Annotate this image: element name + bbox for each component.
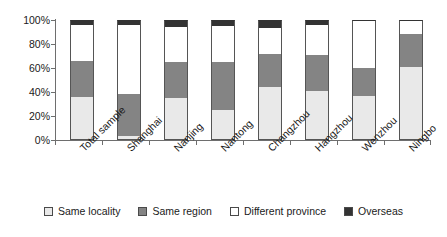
x-axis-tick xyxy=(290,141,291,145)
legend-swatch-icon xyxy=(344,207,353,216)
legend-label: Overseas xyxy=(358,206,403,217)
bar-segment-overseas xyxy=(164,20,188,27)
bar-segment-different-province xyxy=(164,27,188,62)
x-axis-tick xyxy=(243,141,244,145)
bar-segment-different-province xyxy=(352,21,376,68)
bar-segment-overseas xyxy=(258,20,282,28)
bar-segment-same-locality xyxy=(399,67,423,140)
legend-swatch-icon xyxy=(230,207,239,216)
y-axis-labels: 100% 80% 60% 40% 20% 0% xyxy=(0,0,50,237)
x-axis-tick xyxy=(102,141,103,145)
bar-changzhou xyxy=(258,20,282,140)
x-axis-tick xyxy=(337,141,338,145)
legend-label: Different province xyxy=(244,206,326,217)
y-axis-label-80: 80% xyxy=(6,39,50,49)
y-axis-label-60: 60% xyxy=(6,63,50,73)
bar-ningbo xyxy=(399,20,423,140)
bar-segment-same-region xyxy=(352,68,376,96)
bar-wenzhou xyxy=(352,20,376,140)
bar-segment-different-province xyxy=(258,28,282,53)
y-axis-label-40: 40% xyxy=(6,87,50,97)
bar-segment-different-province xyxy=(117,25,141,95)
bar-segment-different-province xyxy=(70,25,94,61)
legend-swatch-icon xyxy=(138,207,147,216)
bar-nantong xyxy=(211,20,235,140)
bar-total-sample xyxy=(70,20,94,140)
bar-segment-same-region xyxy=(164,62,188,98)
legend-item-overseas[interactable]: Overseas xyxy=(344,206,403,217)
x-axis-tick xyxy=(430,141,431,145)
bar-hangzhou xyxy=(305,20,329,140)
legend-label: Same region xyxy=(152,206,212,217)
stacked-bar-chart: 100% 80% 60% 40% 20% 0% Total sampleShan… xyxy=(0,0,447,237)
bar-segment-different-province xyxy=(211,26,235,62)
legend-swatch-icon xyxy=(44,207,53,216)
x-axis-tick xyxy=(149,141,150,145)
x-axis-tick xyxy=(196,141,197,145)
x-axis-tick xyxy=(55,141,56,145)
bar-segment-same-region xyxy=(399,34,423,66)
legend-item-same-region[interactable]: Same region xyxy=(138,206,212,217)
y-axis-label-100: 100% xyxy=(6,15,50,25)
legend-item-same-locality[interactable]: Same locality xyxy=(44,206,120,217)
bar-segment-same-region xyxy=(211,62,235,110)
x-axis-tick xyxy=(384,141,385,145)
legend-item-different-province[interactable]: Different province xyxy=(230,206,326,217)
chart-legend: Same localitySame regionDifferent provin… xyxy=(0,206,447,217)
bar-segment-different-province xyxy=(399,21,423,34)
y-axis-label-0: 0% xyxy=(6,135,50,145)
bar-segment-same-region xyxy=(258,54,282,88)
bar-nanjing xyxy=(164,20,188,140)
bar-segment-different-province xyxy=(305,25,329,55)
bar-segment-same-region xyxy=(70,61,94,97)
y-axis-line xyxy=(55,19,56,141)
bar-segment-same-region xyxy=(305,55,329,91)
y-axis-label-20: 20% xyxy=(6,111,50,121)
legend-label: Same locality xyxy=(58,206,120,217)
bar-shanghai xyxy=(117,20,141,140)
